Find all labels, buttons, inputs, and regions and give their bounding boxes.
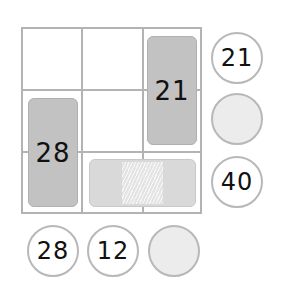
piece-label: 28 [35, 138, 70, 168]
grid-line-vertical-1 [81, 29, 83, 212]
row-clue-2-hatched [211, 93, 263, 145]
column-clue-3-hatched [148, 225, 200, 277]
column-clue-2: 12 [87, 225, 139, 277]
piece-horizontal-bottom[interactable] [89, 159, 196, 207]
clue-value: 40 [221, 168, 254, 196]
column-clue-1: 28 [27, 225, 79, 277]
piece-label: 21 [154, 76, 189, 106]
clue-value: 28 [37, 237, 70, 265]
piece-vertical-right[interactable]: 21 [147, 36, 197, 145]
clue-value: 12 [97, 237, 130, 265]
row-clue-1: 21 [211, 32, 263, 84]
hatched-segment [122, 162, 163, 204]
piece-vertical-left[interactable]: 28 [28, 98, 78, 207]
row-clue-3: 40 [211, 156, 263, 208]
clue-value: 21 [221, 44, 254, 72]
